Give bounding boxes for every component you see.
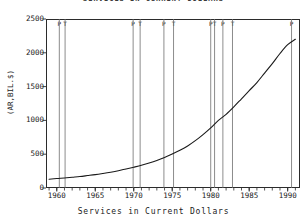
recession-marker-trough: T (63, 21, 67, 27)
recession-marker-peak: P (221, 21, 225, 27)
recession-marker-labels: PTPTPTPTPTP (0, 0, 307, 224)
recession-marker-peak: P (162, 21, 166, 27)
recession-marker-trough: T (138, 21, 142, 27)
recession-marker-peak: P (290, 21, 294, 27)
recession-marker-peak: P (131, 21, 135, 27)
recession-marker-trough: T (172, 21, 176, 27)
recession-marker-trough: T (213, 21, 217, 27)
chart-figure: SERVICES IN CURRENT DOLLARS 050010001500… (0, 0, 307, 224)
recession-marker-trough: T (231, 21, 235, 27)
recession-marker-peak: P (58, 21, 62, 27)
